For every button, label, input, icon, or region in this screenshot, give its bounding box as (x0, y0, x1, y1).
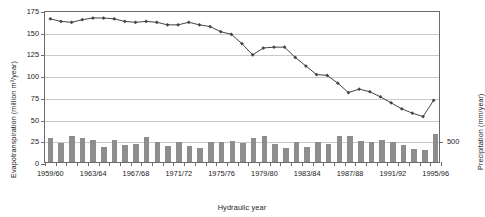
x-axis-tick-label: 1979/80 (251, 170, 278, 177)
line-marker (219, 30, 223, 34)
line-marker (70, 20, 74, 24)
x-axis-tick (430, 162, 431, 166)
x-axis-tick-label: 1963/64 (80, 170, 107, 177)
line-marker (102, 16, 106, 20)
y-axis-left-tick-label: 75 (13, 95, 39, 102)
y-axis-left-tick-label: 25 (13, 139, 39, 146)
x-axis-tick (398, 162, 399, 166)
y-axis-right-tick-label: 500 (447, 139, 459, 146)
x-axis-tick (248, 162, 249, 166)
line-marker (410, 111, 414, 115)
x-axis-tick (109, 162, 110, 166)
x-axis-tick (77, 162, 78, 166)
x-axis-title: Hydraulic year (0, 203, 484, 212)
y-axis-left-tick-label: 150 (13, 30, 39, 37)
x-axis-tick-label: 1975/76 (208, 170, 235, 177)
line-marker (208, 25, 212, 29)
line-marker (155, 20, 159, 24)
y-axis-left-tick-label: 50 (13, 117, 39, 124)
x-axis-tick (377, 162, 378, 166)
x-axis-tick (409, 162, 410, 166)
y-axis-left-tick-label: 100 (13, 73, 39, 80)
y-axis-right-title: Precipitation (mm/year) (468, 0, 484, 195)
x-axis-tick (420, 162, 421, 166)
x-axis-tick (45, 162, 46, 166)
x-axis-tick (323, 162, 324, 166)
y-axis-left-tick-label: 125 (13, 52, 39, 59)
x-axis-title-text: Hydraulic year (218, 203, 267, 212)
x-axis-tick (334, 162, 335, 166)
x-axis-tick (238, 162, 239, 166)
x-axis-tick (302, 162, 303, 166)
x-axis-tick (355, 162, 356, 166)
x-axis-tick (99, 162, 100, 166)
line-marker (80, 18, 84, 22)
x-axis-tick (259, 162, 260, 166)
x-axis-tick (387, 162, 388, 166)
line-series-evapotranspiration (45, 12, 439, 162)
x-axis-tick (280, 162, 281, 166)
line-marker (198, 23, 202, 27)
line-marker (187, 20, 191, 24)
line-marker (123, 20, 127, 24)
x-axis-tick (120, 162, 121, 166)
y-axis-right-title-text: Precipitation (mm/year) (476, 93, 485, 170)
x-axis-tick-label: 1987/88 (337, 170, 364, 177)
line-marker (176, 23, 180, 27)
x-axis-tick (163, 162, 164, 166)
x-axis-tick (56, 162, 57, 166)
x-axis-tick-label: 1971/72 (165, 170, 192, 177)
x-axis-tick (66, 162, 67, 166)
line-marker (368, 90, 372, 94)
line-marker (166, 23, 170, 27)
x-axis-tick (141, 162, 142, 166)
x-axis-tick (88, 162, 89, 166)
x-axis-tick (131, 162, 132, 166)
x-axis-tick (173, 162, 174, 166)
line-marker (112, 17, 116, 21)
line-marker (272, 45, 276, 49)
y-axis-left-tick-label: 0 (13, 160, 39, 167)
x-axis-tick-label: 1983/84 (294, 170, 321, 177)
x-axis-tick (291, 162, 292, 166)
x-axis-tick-label: 1967/68 (123, 170, 150, 177)
x-axis-tick (184, 162, 185, 166)
x-axis-tick (441, 162, 442, 166)
line-marker (134, 20, 138, 24)
x-axis-tick (345, 162, 346, 166)
plot-area: 0255075100125150175 500 1959/601963/6419… (44, 11, 440, 163)
x-axis-tick (313, 162, 314, 166)
y-axis-right-tick (439, 142, 443, 143)
x-axis-tick-label: 1991/92 (379, 170, 406, 177)
line-marker (144, 20, 148, 24)
x-axis-tick (366, 162, 367, 166)
x-axis-tick (195, 162, 196, 166)
x-axis-tick (206, 162, 207, 166)
line-marker (357, 87, 361, 91)
line-marker (59, 20, 63, 24)
x-axis-tick (152, 162, 153, 166)
x-axis-tick (227, 162, 228, 166)
y-axis-left-title: Evapotranspiration (million m³/year) (0, 0, 14, 185)
x-axis-tick (270, 162, 271, 166)
x-axis-tick-label: 1995/96 (422, 170, 449, 177)
line-marker (48, 17, 52, 21)
line-marker (91, 16, 95, 20)
y-axis-left-tick-label: 175 (13, 8, 39, 15)
x-axis-tick-label: 1959/60 (37, 170, 64, 177)
x-axis-tick (216, 162, 217, 166)
